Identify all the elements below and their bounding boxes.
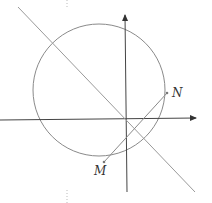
label-m: M: [93, 164, 107, 178]
y-axis: [125, 15, 127, 192]
geometry-diagram: N M: [0, 0, 212, 203]
point-n: [166, 92, 169, 95]
segment-mn: [104, 93, 167, 162]
line-l: [18, 7, 195, 192]
x-axis: [0, 118, 196, 120]
label-n: N: [171, 86, 183, 100]
point-m: [103, 161, 106, 164]
